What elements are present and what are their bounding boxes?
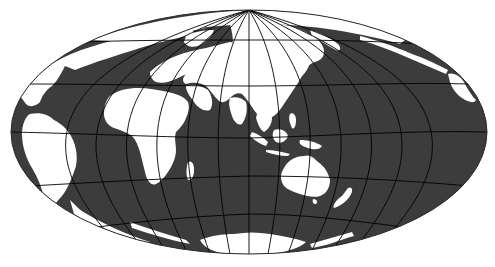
- map-canvas: [0, 0, 495, 267]
- world-map: [0, 0, 495, 267]
